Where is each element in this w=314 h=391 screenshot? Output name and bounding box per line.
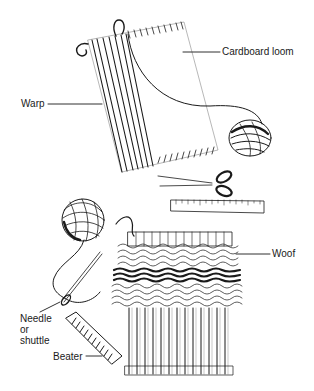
ball-of-yarn-drawing [229, 120, 271, 156]
label-woof: Woof [272, 248, 295, 259]
label-beater: Beater [53, 351, 82, 362]
second-ball-of-yarn-drawing [53, 199, 104, 302]
label-cardboard-loom: Cardboard loom [222, 46, 294, 57]
ruler-drawing [171, 200, 264, 213]
label-needle-line3: shuttle [20, 335, 60, 346]
label-warp: Warp [21, 98, 45, 109]
label-needle-or-shuttle: Needle or shuttle [20, 313, 60, 346]
scissors-drawing [158, 169, 233, 198]
weaving-in-progress-drawing [112, 217, 270, 375]
cardboard-loom-drawing [48, 20, 262, 172]
weaving-diagram: Cardboard loom Warp Woof Needle or shutt… [0, 0, 314, 391]
label-needle-line2: or [20, 324, 60, 335]
needle-drawing [40, 252, 102, 312]
label-needle-line1: Needle [20, 313, 60, 324]
